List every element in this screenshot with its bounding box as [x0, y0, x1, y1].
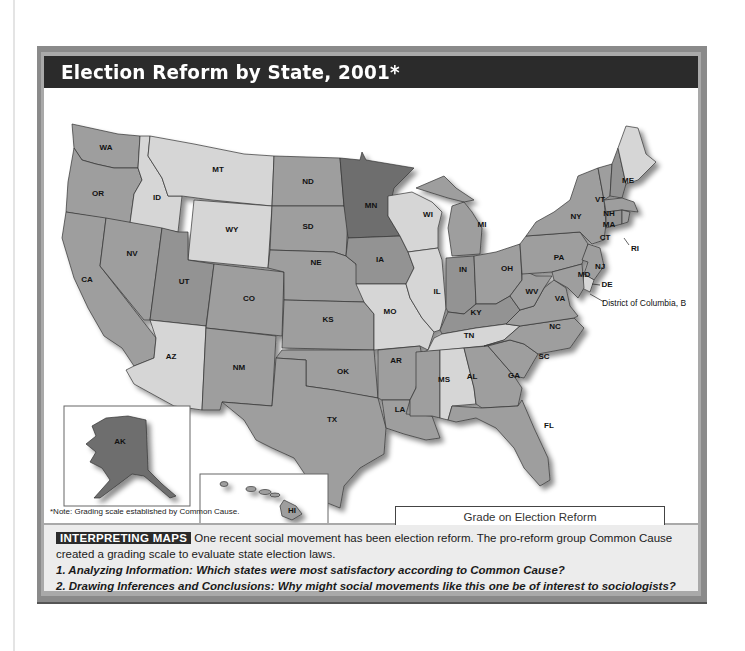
state-label: MI	[478, 220, 487, 229]
state-label: DE	[601, 280, 613, 289]
state-label: KY	[470, 308, 482, 317]
map-figure: Election Reform by State, 2001*	[37, 46, 707, 602]
state-label: RI	[631, 244, 639, 253]
state-RI	[622, 210, 630, 224]
state-label: NY	[570, 212, 582, 221]
caption-intro: INTERPRETING MAPS One recent social move…	[56, 530, 696, 562]
state-label: MN	[365, 201, 378, 210]
state-label: SD	[302, 222, 313, 231]
interpreting-maps-caption: INTERPRETING MAPS One recent social move…	[44, 525, 698, 591]
state-label: MA	[603, 220, 616, 229]
state-WY	[188, 200, 272, 268]
map-panel: WA OR CA ID NV MT WY UT AZ CO NM ND SD N…	[44, 88, 698, 523]
state-label: VA	[555, 294, 566, 303]
state-label: NM	[233, 363, 246, 372]
state-label: OH	[501, 264, 513, 273]
state-label: TX	[327, 415, 338, 424]
state-label: AR	[390, 356, 402, 365]
state-label: NC	[549, 322, 561, 331]
state-label: PA	[554, 253, 565, 262]
alaska-inset: AK	[64, 406, 190, 506]
state-label: MS	[438, 375, 451, 384]
state-label: ND	[302, 177, 314, 186]
state-SD	[270, 206, 348, 256]
state-label: OK	[337, 367, 349, 376]
state-label: AK	[114, 437, 126, 446]
figure-frame: Election Reform by State, 2001*	[41, 52, 701, 596]
footnote: *Note: Grading scale established by Comm…	[50, 507, 239, 516]
state-KS	[282, 300, 374, 350]
title-bar: Election Reform by State, 2001*	[44, 56, 698, 88]
state-label: TN	[464, 331, 475, 340]
state-label: IL	[433, 287, 440, 296]
state-label: AZ	[166, 352, 177, 361]
state-label: VT	[595, 195, 605, 204]
state-label: ME	[622, 176, 635, 185]
state-label: NV	[126, 249, 138, 258]
state-label: FL	[544, 421, 554, 430]
interpreting-maps-badge: INTERPRETING MAPS	[56, 532, 191, 544]
state-label: HI	[288, 506, 296, 515]
state-label: WV	[526, 287, 540, 296]
state-label: NJ	[595, 262, 605, 271]
state-label: WI	[423, 210, 433, 219]
state-label: CO	[243, 294, 255, 303]
state-label: OR	[92, 189, 104, 198]
state-label: NE	[310, 258, 322, 267]
state-label: GA	[508, 371, 520, 380]
state-label: MO	[384, 307, 397, 316]
question-2: 2. Drawing Inferences and Conclusions: W…	[56, 578, 696, 594]
page-edge	[13, 0, 15, 651]
state-label: ID	[153, 193, 161, 202]
state-label: CT	[600, 233, 611, 242]
state-label: MD	[578, 270, 591, 279]
question-1: 1. Analyzing Information: Which states w…	[56, 562, 696, 578]
state-label: NH	[603, 209, 615, 218]
map-title: Election Reform by State, 2001*	[61, 60, 400, 84]
state-label: LA	[395, 405, 406, 414]
state-label: AL	[467, 372, 478, 381]
state-FL	[448, 400, 550, 486]
us-map: WA OR CA ID NV MT WY UT AZ CO NM ND SD N…	[44, 88, 698, 523]
state-label: WA	[100, 143, 113, 152]
state-label: UT	[179, 277, 190, 286]
state-label: CA	[81, 275, 93, 284]
state-NY	[526, 168, 606, 244]
state-label: WY	[226, 225, 240, 234]
legend-title: Grade on Election Reform	[396, 511, 664, 523]
state-label: SC	[538, 352, 549, 361]
state-label: IN	[459, 265, 467, 274]
dc-label: District of Columbia, B	[602, 298, 686, 308]
state-label: KS	[322, 315, 334, 324]
state-label: MT	[212, 165, 224, 174]
state-label: IA	[376, 255, 384, 264]
